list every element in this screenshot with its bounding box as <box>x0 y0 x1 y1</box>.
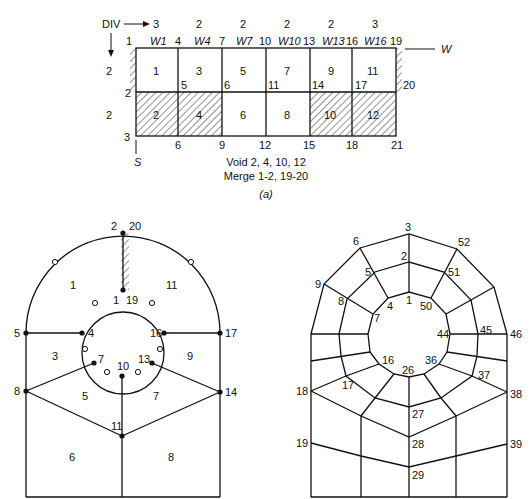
merge-note: Merge 1-2, 19-20 <box>224 170 308 182</box>
figure-a-grid: DIV 3 2 2 2 2 3 2 2 W1 W4 W7 W10 W13 W16… <box>102 18 453 200</box>
node-label: 16 <box>150 327 162 339</box>
node-label: 46 <box>510 328 522 340</box>
node-label: 17 <box>225 327 237 339</box>
node-label: 5 <box>181 79 187 91</box>
element-label: 1 <box>153 65 159 77</box>
node-label: 36 <box>425 354 437 366</box>
node-label: 26 <box>402 364 414 376</box>
node-label: 5 <box>365 266 371 278</box>
node-label: 19 <box>296 437 308 449</box>
node-label: 1 <box>113 294 119 306</box>
node-label: 6 <box>224 79 230 91</box>
node-label: 51 <box>448 266 460 278</box>
node-label: 7 <box>374 312 380 324</box>
node-label: 17 <box>355 79 367 91</box>
element-label: 9 <box>328 65 334 77</box>
node-label: 16 <box>382 354 394 366</box>
node-label: 8 <box>338 295 344 307</box>
node-label: 29 <box>412 469 424 481</box>
node-label: 9 <box>219 139 225 151</box>
col-header: W7 <box>236 35 253 47</box>
node-label: 8 <box>14 385 20 397</box>
element-label: 12 <box>367 109 379 121</box>
element-label: 7 <box>284 65 290 77</box>
node-label: 27 <box>412 408 424 420</box>
merge-hatch-19-20 <box>396 48 402 92</box>
node-label: 39 <box>510 438 522 450</box>
node-label: 37 <box>478 369 490 381</box>
col-header: W10 <box>278 35 302 47</box>
element-label: 5 <box>82 390 88 402</box>
element-label: 9 <box>187 350 193 362</box>
element-label: 7 <box>153 390 159 402</box>
row-div-count: 2 <box>106 65 112 77</box>
void-region-10-12 <box>310 92 396 136</box>
element-label: 11 <box>166 279 177 291</box>
node-label: 11 <box>268 79 279 91</box>
node-label: 1 <box>126 35 132 47</box>
arrow-head-icon <box>108 50 114 57</box>
col-header: W1 <box>150 35 167 47</box>
figure-b-mapped-region: 2 20 1 19 5 4 16 17 7 10 13 8 14 11 1 11… <box>14 220 237 497</box>
node-label: 6 <box>175 139 181 151</box>
node-label: 11 <box>111 420 122 432</box>
node-label: 50 <box>420 300 432 312</box>
node-label: 10 <box>117 360 129 372</box>
element-label: 10 <box>324 109 336 121</box>
node-label: 17 <box>342 379 354 391</box>
node-label: 3 <box>405 221 411 233</box>
node-label: 13 <box>138 353 150 365</box>
node-label: 19 <box>126 294 138 306</box>
void-region-2-4 <box>136 92 222 136</box>
node-label: 6 <box>353 235 359 247</box>
node-label: 16 <box>346 35 358 47</box>
node-label: 4 <box>175 35 181 47</box>
node-label: 4 <box>387 300 393 312</box>
element-label: 4 <box>196 109 202 121</box>
node-label: 20 <box>403 79 415 91</box>
node-label: 38 <box>510 388 522 400</box>
node-label: 7 <box>219 35 225 47</box>
col-div-count: 2 <box>328 18 334 30</box>
node-label: 14 <box>225 386 237 398</box>
element-label: 6 <box>69 451 75 463</box>
element-label: 8 <box>284 109 290 121</box>
diagram-canvas: DIV 3 2 2 2 2 3 2 2 W1 W4 W7 W10 W13 W16… <box>0 0 531 499</box>
node-label: 44 <box>437 328 449 340</box>
element-label: 3 <box>196 65 202 77</box>
node-label: 18 <box>346 139 358 151</box>
col-header: W13 <box>322 35 346 47</box>
node-label: 1 <box>406 294 412 306</box>
element-label: 2 <box>153 109 159 121</box>
node-label: 52 <box>458 236 470 248</box>
col-div-count: 2 <box>240 18 246 30</box>
node-label: 4 <box>88 327 94 339</box>
node-label: 7 <box>98 353 104 365</box>
caption-a: (a) <box>259 188 273 200</box>
col-div-count: 3 <box>153 18 159 30</box>
void-note: Void 2, 4, 10, 12 <box>226 156 306 168</box>
node-label: 19 <box>390 35 402 47</box>
node-label: 20 <box>129 220 141 232</box>
node-label: 12 <box>259 139 271 151</box>
node-label: 15 <box>303 139 315 151</box>
element-label: 11 <box>367 65 378 77</box>
node-label: 18 <box>296 385 308 397</box>
node-label: 2 <box>125 87 131 99</box>
col-div-count: 2 <box>196 18 202 30</box>
node-label: 21 <box>391 139 403 151</box>
node-label: 5 <box>14 327 20 339</box>
node-label: 3 <box>124 131 130 143</box>
element-label: 8 <box>168 451 174 463</box>
node-label: 14 <box>312 79 324 91</box>
node-label: 45 <box>480 324 492 336</box>
arrow-head-icon <box>143 21 150 27</box>
row-div-count: 2 <box>106 109 112 121</box>
element-label: 6 <box>240 109 246 121</box>
element-label: 3 <box>52 350 58 362</box>
col-header: W16 <box>364 35 388 47</box>
col-header: W4 <box>194 35 211 47</box>
div-label: DIV <box>102 18 121 30</box>
node-label: 2 <box>111 220 117 232</box>
col-div-count: 3 <box>372 18 378 30</box>
